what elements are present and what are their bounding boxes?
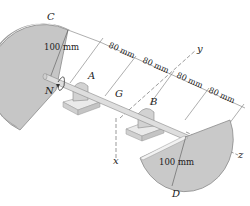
label-B: B (149, 96, 157, 107)
axis-label-x: x (113, 155, 119, 166)
axis-label-y: y (196, 43, 203, 54)
axis-label-z: z (237, 149, 244, 160)
label-C: C (47, 11, 55, 22)
dimension-disk-D: 100 mm (159, 157, 194, 167)
label-D: D (171, 188, 180, 199)
dimension-spacing-3: 80 mm (175, 71, 205, 91)
y-axis-line (120, 50, 196, 118)
dimension-spacing-2: 80 mm (141, 56, 171, 76)
label-A: A (87, 70, 95, 81)
disk-C (0, 25, 68, 130)
label-G: G (115, 88, 123, 99)
shaft-diagram: C A N G B D y x z 100 mm 100 mm 80 mm 80… (0, 0, 250, 206)
dimension-disk-C: 100 mm (44, 42, 79, 52)
dimension-spacing-1: 80 mm (107, 41, 137, 61)
shaft-end (43, 74, 47, 80)
dimension-lines (68, 30, 245, 136)
label-N: N (44, 85, 55, 96)
dimension-spacing-4: 80 mm (207, 86, 237, 106)
